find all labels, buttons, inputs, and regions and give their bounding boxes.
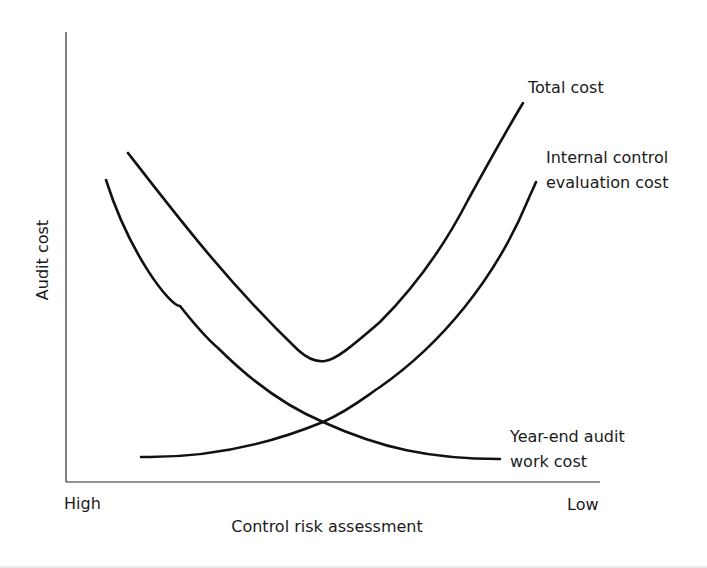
- internal-control-cost-curve: [141, 182, 536, 457]
- internal-control-label-line2: evaluation cost: [546, 173, 668, 192]
- x-tick-high: High: [64, 494, 101, 513]
- x-tick-low: Low: [567, 495, 599, 514]
- x-axis-title: Control risk assessment: [231, 517, 422, 536]
- y-axis-title: Audit cost: [33, 220, 52, 300]
- total-cost-curve: [128, 103, 523, 361]
- total-cost-label: Total cost: [527, 78, 604, 97]
- year-end-cost-curve: [106, 180, 500, 459]
- audit-cost-chart: Total cost Internal control evaluation c…: [0, 0, 707, 568]
- year-end-label-line1: Year-end audit: [509, 427, 625, 446]
- internal-control-label-line1: Internal control: [546, 148, 668, 167]
- year-end-label-line2: work cost: [510, 452, 587, 471]
